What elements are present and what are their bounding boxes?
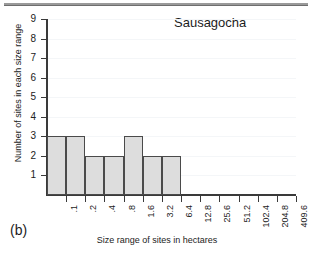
x-tick-label: .1	[70, 205, 79, 213]
top-divider-rule	[4, 3, 308, 6]
x-tick-label: 102.4	[262, 205, 271, 228]
x-tick	[66, 196, 67, 202]
y-tick	[41, 39, 46, 40]
x-tick-label: 1.6	[147, 205, 156, 218]
y-tick	[41, 175, 46, 176]
y-axis-title: Number of sites in each size range	[13, 13, 23, 173]
x-tick-label: 6.4	[185, 205, 194, 218]
gridline	[47, 58, 296, 59]
y-tick-label-wrap: 1	[22, 175, 36, 176]
y-tick-label: 5	[22, 92, 36, 102]
y-tick-label-wrap: 2	[22, 156, 36, 157]
x-tick-label: .4	[108, 205, 117, 213]
y-tick-label-wrap: 9	[22, 19, 36, 20]
x-tick	[162, 196, 163, 202]
x-tick-label: 3.2	[166, 205, 175, 218]
y-tick	[41, 117, 46, 118]
y-tick-label: 4	[22, 112, 36, 122]
figure-panel: Sausagocha 123456789 .1.2.4.81.63.26.412…	[0, 0, 314, 253]
x-tick-label: 204.8	[281, 205, 290, 228]
bar	[104, 156, 123, 195]
y-tick-label: 6	[22, 73, 36, 83]
y-tick-label-wrap: 6	[22, 78, 36, 79]
y-tick-label: 3	[22, 131, 36, 141]
x-tick	[296, 196, 297, 202]
x-tick	[239, 196, 240, 202]
bar	[85, 156, 104, 195]
y-tick	[41, 58, 46, 59]
x-tick-label: 409.6	[300, 205, 309, 228]
y-tick	[41, 97, 46, 98]
x-tick	[181, 196, 182, 202]
y-tick	[41, 19, 46, 20]
panel-label: (b)	[10, 222, 27, 238]
x-tick-label: .8	[128, 205, 137, 213]
x-tick-label: .2	[89, 205, 98, 213]
y-tick-label: 7	[22, 53, 36, 63]
y-tick	[41, 156, 46, 157]
bar	[162, 156, 181, 195]
x-tick	[143, 196, 144, 202]
x-tick	[258, 196, 259, 202]
y-tick	[41, 78, 46, 79]
x-tick	[200, 196, 201, 202]
gridline	[47, 117, 296, 118]
x-axis-title: Size range of sites in hectares	[0, 235, 314, 245]
x-tick	[277, 196, 278, 202]
bar	[143, 156, 162, 195]
y-tick-label-wrap: 4	[22, 117, 36, 118]
y-tick-label: 9	[22, 14, 36, 24]
x-tick-label: 51.2	[243, 205, 252, 223]
y-tick-label-wrap: 5	[22, 97, 36, 98]
gridline	[47, 19, 296, 20]
x-tick	[104, 196, 105, 202]
x-tick-label: 25.6	[223, 205, 232, 223]
x-tick-label: 12.8	[204, 205, 213, 223]
y-tick	[41, 136, 46, 137]
gridline	[47, 39, 296, 40]
bar	[124, 136, 143, 195]
y-tick-label: 1	[22, 170, 36, 180]
gridline	[47, 97, 296, 98]
y-tick-label-wrap: 7	[22, 58, 36, 59]
gridline	[47, 78, 296, 79]
x-tick	[124, 196, 125, 202]
x-tick	[219, 196, 220, 202]
y-tick-label-wrap: 8	[22, 39, 36, 40]
y-tick-label-wrap: 3	[22, 136, 36, 137]
x-tick	[85, 196, 86, 202]
y-tick-label: 8	[22, 34, 36, 44]
bar	[66, 136, 85, 195]
y-tick-label: 2	[22, 151, 36, 161]
bar	[47, 136, 66, 195]
